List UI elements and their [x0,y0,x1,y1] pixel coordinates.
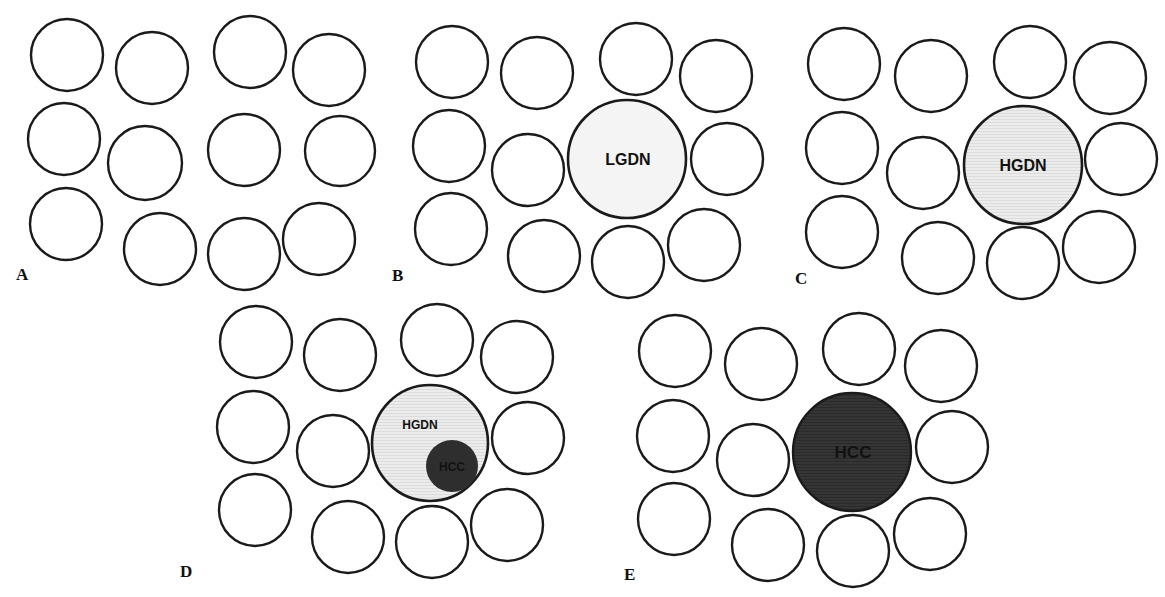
panel-label-d: D [180,562,192,581]
hcc-label: HCC [835,443,872,462]
normal-cell [806,196,878,268]
panel-label-c: C [795,269,807,288]
normal-cell [124,213,196,285]
normal-cell [905,330,977,402]
normal-cell [808,28,880,100]
normal-cell [717,424,789,496]
normal-cell [219,474,291,546]
normal-cell [592,226,664,298]
hgdn-label: HGDN [999,157,1046,174]
panel-label-a: A [16,265,29,284]
normal-cell [208,114,280,186]
panel-e: HCC E [624,313,988,587]
normal-cell [1085,123,1157,195]
normal-cell [916,411,988,483]
normal-cell [31,19,103,91]
lgdn-label: LGDN [605,151,650,168]
panel-d: HGDN HCC D [180,304,564,581]
normal-cell [413,110,485,182]
normal-cell [501,37,573,109]
panel-label-b: B [392,266,403,285]
normal-cell [304,319,376,391]
normal-cell [305,116,375,186]
normal-cell [108,126,182,200]
normal-cell [806,112,878,184]
normal-cell [668,209,740,281]
normal-cell [293,34,365,106]
normal-cell [297,415,369,487]
normal-cell [492,134,564,206]
normal-cell [725,328,797,400]
panel-label-e: E [624,565,635,584]
normal-cell [396,506,468,578]
normal-cell [691,123,763,195]
panel-b: LGDN B [392,23,763,298]
normal-cell [30,188,102,260]
normal-cell [415,193,487,265]
normal-cell [416,26,488,98]
normal-cell [220,306,292,378]
normal-cell [902,222,974,294]
normal-cell [823,313,895,385]
normal-cell [680,40,752,112]
normal-cell [887,137,959,209]
normal-cell [481,321,553,393]
normal-cell [895,40,967,112]
normal-cell [471,489,543,561]
normal-cell [1074,42,1146,114]
normal-cell [217,391,289,463]
hepatocarcinogenesis-diagram: A LGDN B HGDN C [0,0,1165,597]
normal-cell [401,304,473,376]
normal-cell [894,498,966,570]
panel-c: HGDN C [795,26,1157,299]
normal-cell [732,509,804,581]
normal-cell [208,218,280,290]
normal-cell [994,26,1066,98]
normal-cell [312,501,384,573]
normal-cell [28,103,100,175]
normal-cell [638,483,710,555]
normal-cell [283,203,355,275]
normal-cell [508,220,580,292]
normal-cell [1063,211,1135,283]
normal-cell [639,315,711,387]
normal-cell [600,23,672,95]
normal-cell [637,400,709,472]
normal-cell [492,402,564,474]
normal-cell [116,32,188,104]
panel-a: A [16,16,375,290]
hgdn-label: HGDN [402,418,437,432]
normal-cell [987,227,1059,299]
normal-cell [214,16,286,88]
normal-cell [817,515,889,587]
hcc-focus-label: HCC [439,460,465,474]
